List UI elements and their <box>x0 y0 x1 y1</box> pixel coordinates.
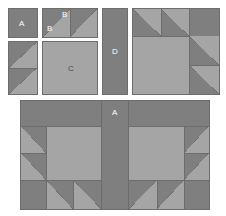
full-top-bar-left <box>21 101 101 126</box>
label-square-a: A <box>19 20 24 28</box>
full-right-bottom-hst-inner <box>157 180 184 209</box>
quarter-hst-right-upper <box>189 36 219 65</box>
quarter-seam-v-top <box>161 9 162 36</box>
full-seam-v-right-bottom <box>157 180 158 209</box>
quarter-corner-square <box>189 9 219 36</box>
unit-square-c: C <box>42 41 98 95</box>
full-seam-h-right-mid <box>184 153 209 154</box>
full-left-bottom-hst-inner <box>46 180 73 209</box>
label-square-c: C <box>68 65 74 73</box>
unit-full-block-assembly: A <box>20 100 210 210</box>
quarter-center-square <box>133 36 189 94</box>
unit-square-a: A <box>8 8 38 38</box>
full-seam-h-left-mid <box>21 153 46 154</box>
full-right-hst-upper <box>184 126 209 153</box>
full-right-hst-lower <box>184 153 209 180</box>
hst-b-left <box>43 9 70 37</box>
full-seam-v-sash-right <box>128 101 129 209</box>
unit-half-square-triangle-pair-b: B B <box>42 8 98 38</box>
full-seam-h-bottom-right <box>129 180 209 181</box>
full-right-bottom-corner <box>184 180 209 209</box>
full-seam-h-top-right <box>129 126 209 127</box>
hst-column-bottom <box>9 68 37 94</box>
full-seam-v-sash-left <box>101 101 102 209</box>
full-left-hst-upper <box>21 126 46 153</box>
quarter-hst-top-left <box>133 9 161 36</box>
unit-half-square-triangle-column <box>8 41 38 95</box>
full-right-center-square <box>129 126 184 180</box>
seam-vertical-b <box>70 9 71 37</box>
seam-horizontal-column <box>9 68 37 69</box>
full-left-center-square <box>46 126 101 180</box>
quarter-seam-h-right <box>189 65 219 66</box>
unit-rectangle-d: D <box>102 8 128 95</box>
full-seam-v-left-inner <box>46 126 47 209</box>
full-left-bottom-corner <box>21 180 46 209</box>
full-right-bottom-hst-outer <box>129 180 157 209</box>
full-center-sash <box>101 126 129 209</box>
quilt-block-piecing-diagram: A B B C D <box>0 0 226 216</box>
quarter-seam-v-right <box>189 9 190 94</box>
hst-column-top <box>9 42 37 68</box>
hst-b-right <box>70 9 97 37</box>
label-rectangle-d: D <box>112 48 118 56</box>
full-top-sash <box>101 101 129 126</box>
quarter-seam-h-top <box>133 36 189 37</box>
quarter-hst-top-mid <box>161 9 189 36</box>
full-seam-v-left-bottom <box>73 180 74 209</box>
unit-quarter-block-assembly <box>132 8 220 95</box>
full-seam-h-bottom-left <box>21 180 101 181</box>
quarter-hst-right-lower <box>189 65 219 94</box>
full-seam-h-top-left <box>21 126 101 127</box>
full-top-bar-right <box>129 101 209 126</box>
full-left-hst-lower <box>21 153 46 180</box>
full-seam-v-right-inner <box>184 126 185 209</box>
full-left-bottom-hst-outer <box>73 180 101 209</box>
